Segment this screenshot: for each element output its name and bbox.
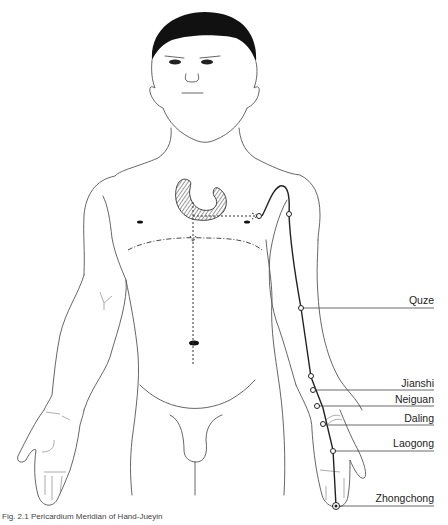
- label-leaders: [301, 308, 434, 506]
- right-nipple: [244, 221, 250, 224]
- label-quze: Quze: [409, 294, 434, 306]
- heart-region: [176, 179, 227, 220]
- rib-line: [128, 238, 262, 250]
- torso: [44, 128, 362, 495]
- meridian-line: [262, 186, 336, 506]
- figure-caption: Fig. 2.1 Pericardium Meridian of Hand-Ju…: [2, 512, 163, 521]
- meridian-diagram: Quze Jianshi Neiguan Daling Laogong Zhon…: [0, 0, 448, 525]
- right-eye: [201, 60, 213, 65]
- left-eyebrow: [165, 56, 184, 58]
- right-eyebrow: [200, 56, 220, 58]
- label-daling: Daling: [404, 412, 434, 424]
- left-nipple: [137, 221, 143, 224]
- right-hand: [296, 385, 366, 507]
- head: [150, 12, 259, 142]
- ximen-point: [309, 374, 314, 379]
- left-eye: [169, 60, 181, 65]
- label-zhongchong: Zhongchong: [376, 492, 434, 504]
- laogong-point: [331, 449, 336, 454]
- neiguan-point: [315, 404, 320, 409]
- tianchi-point: [257, 214, 262, 219]
- tianquan-point: [287, 212, 292, 217]
- left-hand: [18, 410, 84, 505]
- label-jianshi: Jianshi: [401, 377, 434, 389]
- label-laogong: Laogong: [393, 437, 434, 449]
- body-illustration: [0, 0, 448, 525]
- jianshi-point: [311, 388, 316, 393]
- nose: [185, 74, 199, 82]
- daling-point: [321, 422, 326, 427]
- face-outline: [150, 60, 259, 142]
- navel: [189, 341, 199, 346]
- hair: [152, 12, 256, 62]
- quze-point: [299, 306, 304, 311]
- label-neiguan: Neiguan: [395, 393, 434, 405]
